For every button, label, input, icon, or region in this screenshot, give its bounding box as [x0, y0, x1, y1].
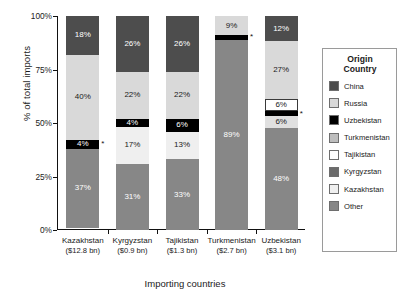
legend-item-turkmenistan[interactable]: Turkmenistan [329, 132, 391, 144]
x-label-value: ($3.1 bn) [248, 246, 314, 256]
segment-kyrgyzstan-other[interactable]: 31% [116, 164, 149, 230]
bar-uzbekistan[interactable]: 12%27%6%6%48% [265, 16, 298, 230]
stacked-bar-chart: % of total imports 100%75%50%25%0% 18%40… [0, 0, 403, 295]
y-tickmark-100 [53, 16, 57, 17]
x-tickmark-2 [207, 230, 208, 234]
y-tick-50: 50% [35, 119, 52, 127]
segment-tajikistan-china[interactable]: 26% [166, 16, 199, 72]
legend-item-other[interactable]: Other [329, 200, 391, 212]
segment-uzbekistan-other[interactable]: 48% [265, 128, 298, 230]
segment-value-label: 40% [75, 93, 91, 101]
segment-uzbekistan-china[interactable]: 12% [265, 16, 298, 41]
segment-value-label: 12% [273, 25, 289, 33]
legend-label: Uzbekistan [344, 116, 382, 125]
segment-tajikistan-uzbekistan[interactable]: 6% [166, 119, 199, 132]
segment-kyrgyzstan-kazakhstan[interactable]: 17% [116, 127, 149, 163]
footnote-asterisk: * [101, 141, 104, 147]
y-tickmark-25 [53, 177, 57, 178]
legend-label: Other [344, 202, 363, 211]
legend-swatch-turkmenistan [329, 133, 339, 143]
segment-tajikistan-russia[interactable]: 22% [166, 72, 199, 119]
legend-item-tajikistan[interactable]: Tajikistan [329, 149, 391, 161]
segment-value-label: 33% [174, 191, 190, 199]
segment-value-label: 26% [174, 40, 190, 48]
segment-kyrgyzstan-russia[interactable]: 22% [116, 72, 149, 119]
segment-value-label: 6% [176, 121, 188, 129]
legend-title: Origin Country [329, 54, 391, 74]
segment-value-label: 22% [174, 91, 190, 99]
legend-swatch-kyrgyzstan [329, 167, 339, 177]
segment-value-label: 6% [275, 118, 287, 126]
y-tick-100: 100% [31, 12, 52, 20]
segment-value-label: 37% [75, 184, 91, 192]
footnote-asterisk: * [300, 111, 303, 117]
legend-title-line2: Country [344, 64, 377, 74]
legend-label: Kazakhstan [344, 185, 384, 194]
legend-item-china[interactable]: China [329, 80, 391, 92]
segment-tajikistan-kazakhstan[interactable]: 13% [166, 132, 199, 160]
segment-value-label: 89% [224, 131, 240, 139]
segment-turkmenistan-russia[interactable]: 9% [215, 16, 248, 35]
bar-kyrgyzstan[interactable]: 26%22%4%17%31% [116, 16, 149, 230]
legend-item-russia[interactable]: Russia [329, 97, 391, 109]
segment-kazakhstan-china[interactable]: 18% [66, 16, 99, 55]
segment-value-label: 22% [124, 91, 140, 99]
segment-uzbekistan-russia[interactable]: 27% [265, 41, 298, 98]
x-tickmark-1 [157, 230, 158, 234]
x-tickmark-0 [108, 230, 109, 234]
segment-turkmenistan-other[interactable]: 89% [215, 40, 248, 230]
segment-value-label: 26% [124, 40, 140, 48]
x-label-name: Uzbekistan [248, 236, 314, 246]
plot-area: 18%40%4%37%26%22%4%17%31%26%22%6%13%33%9… [58, 16, 306, 230]
x-tickmark-3 [256, 230, 257, 234]
bar-tajikistan[interactable]: 26%22%6%13%33% [166, 16, 199, 230]
y-tickmark-75 [53, 70, 57, 71]
y-tickmark-0 [53, 230, 57, 231]
legend-items: ChinaRussiaUzbekistanTurkmenistanTajikis… [329, 80, 391, 212]
legend-swatch-tajikistan [329, 150, 339, 160]
footnote-asterisk: * [250, 34, 253, 40]
legend-label: Turkmenistan [344, 133, 390, 142]
legend-swatch-uzbekistan [329, 115, 339, 125]
bar-kazakhstan[interactable]: 18%40%4%37% [66, 16, 99, 230]
segment-kazakhstan-uzbekistan[interactable]: 4% [66, 140, 99, 149]
segment-kyrgyzstan-china[interactable]: 26% [116, 16, 149, 72]
y-tickmark-50 [53, 123, 57, 124]
legend-item-uzbekistan[interactable]: Uzbekistan [329, 114, 391, 126]
segment-value-label: 27% [273, 66, 289, 74]
segment-value-label: 9% [226, 22, 238, 30]
segment-uzbekistan-turkmenistan[interactable]: 6% [265, 116, 298, 129]
legend-swatch-russia [329, 98, 339, 108]
legend-item-kyrgyzstan[interactable]: Kyrgyzstan [329, 166, 391, 178]
legend-item-kazakhstan[interactable]: Kazakhstan [329, 183, 391, 195]
legend-label: Tajikistan [344, 150, 375, 159]
legend-swatch-china [329, 81, 339, 91]
y-tick-25: 25% [35, 173, 52, 181]
segment-tajikistan-other[interactable]: 33% [166, 159, 199, 230]
legend-label: Russia [344, 99, 367, 108]
y-axis-tick-labels: 100%75%50%25%0% [14, 0, 52, 295]
segment-value-label: 17% [124, 141, 140, 149]
segment-kyrgyzstan-uzbekistan[interactable]: 4% [116, 119, 149, 128]
y-tick-75: 75% [35, 66, 52, 74]
segment-value-label: 31% [124, 193, 140, 201]
legend-label: Kyrgyzstan [344, 167, 382, 176]
bar-turkmenistan[interactable]: 9%89% [215, 16, 248, 230]
legend-swatch-other [329, 201, 339, 211]
x-label-uzbekistan: Uzbekistan($3.1 bn) [248, 236, 314, 256]
segment-value-label: 13% [174, 141, 190, 149]
segment-kazakhstan-other[interactable]: 37% [66, 149, 99, 228]
x-axis-title: Importing countries [90, 278, 280, 289]
legend-panel: Origin Country ChinaRussiaUzbekistanTurk… [322, 48, 397, 252]
legend-swatch-kazakhstan [329, 184, 339, 194]
segment-kazakhstan-russia[interactable]: 40% [66, 55, 99, 141]
segment-value-label: 4% [127, 119, 139, 127]
segment-value-label: 6% [275, 101, 287, 109]
segment-uzbekistan-tajikistan[interactable]: 6% [265, 99, 298, 112]
segment-value-label: 18% [75, 31, 91, 39]
segment-value-label: 48% [273, 175, 289, 183]
legend-label: China [344, 82, 364, 91]
legend-title-line1: Origin [347, 54, 372, 64]
segment-value-label: 4% [77, 140, 89, 148]
y-tick-0: 0% [40, 226, 52, 234]
